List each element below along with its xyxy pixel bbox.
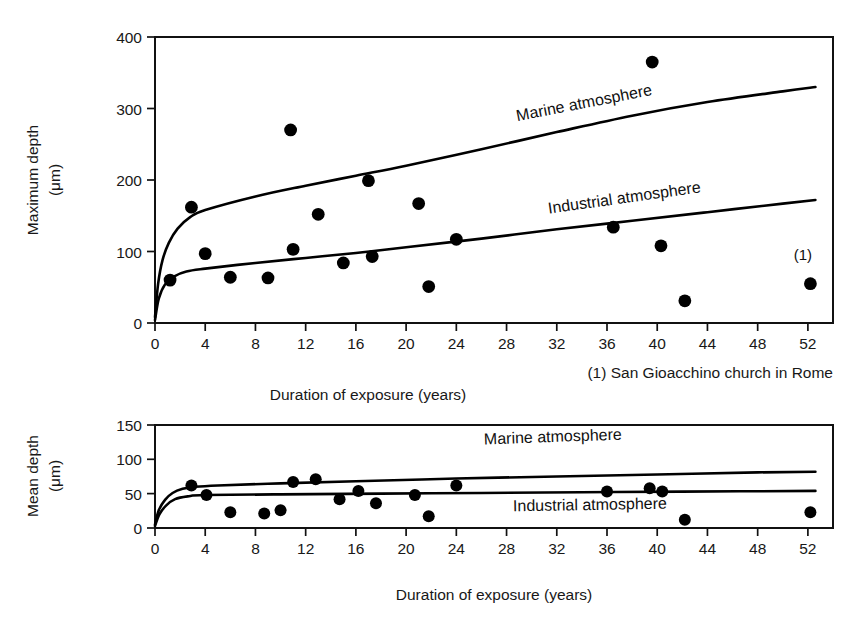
bottom-ytick-100: 100 bbox=[116, 451, 142, 468]
xtick-label-32: 32 bbox=[548, 335, 565, 352]
xtick-label-32: 32 bbox=[548, 540, 565, 557]
xtick-label-40: 40 bbox=[649, 540, 667, 557]
data-point bbox=[164, 274, 177, 287]
data-point bbox=[366, 250, 379, 263]
xtick-label-44: 44 bbox=[699, 540, 717, 557]
bottom-x-axis-title: Duration of exposure (years) bbox=[396, 586, 592, 603]
data-point bbox=[284, 124, 297, 137]
maximum-depth-chart: 400 300 200 100 0 Maximum depth (μm) 048… bbox=[24, 29, 833, 352]
xtick-label-16: 16 bbox=[347, 335, 364, 352]
top-plot-frame bbox=[155, 37, 833, 323]
xtick-label-24: 24 bbox=[448, 540, 466, 557]
bottom-ytick-150: 150 bbox=[116, 417, 142, 434]
top-y-axis-title-line1: Maximum depth bbox=[24, 125, 41, 235]
data-point bbox=[200, 489, 212, 501]
xtick-label-4: 4 bbox=[201, 335, 210, 352]
bottom-data-points bbox=[185, 473, 816, 526]
mean-depth-chart: 150 100 50 0 Mean depth (μm) 04812162024… bbox=[24, 417, 833, 557]
data-point bbox=[352, 485, 364, 497]
xtick-label-12: 12 bbox=[297, 540, 314, 557]
data-point bbox=[310, 473, 322, 485]
data-point bbox=[334, 493, 346, 505]
curve-label-marine-atmosphere-bottom: Marine atmosphere bbox=[484, 426, 622, 448]
xtick-label-0: 0 bbox=[151, 335, 160, 352]
top-x-axis: 0481216202428323640444852 bbox=[151, 323, 817, 352]
data-point bbox=[601, 486, 613, 498]
data-point bbox=[185, 479, 197, 491]
top-ytick-400: 400 bbox=[116, 29, 142, 46]
xtick-label-20: 20 bbox=[397, 335, 415, 352]
top-ytick-200: 200 bbox=[116, 172, 142, 189]
xtick-label-36: 36 bbox=[598, 335, 615, 352]
data-point bbox=[804, 277, 817, 290]
xtick-label-20: 20 bbox=[397, 540, 415, 557]
curve-industrial-atmosphere-top bbox=[155, 200, 815, 320]
data-point bbox=[678, 294, 691, 307]
data-point bbox=[646, 56, 659, 69]
xtick-label-4: 4 bbox=[201, 540, 210, 557]
data-point bbox=[679, 514, 691, 526]
data-point bbox=[312, 208, 325, 221]
curve-marine-atmosphere-top bbox=[155, 87, 815, 317]
xtick-label-8: 8 bbox=[251, 540, 260, 557]
xtick-label-8: 8 bbox=[251, 335, 260, 352]
bottom-ytick-50: 50 bbox=[125, 486, 143, 503]
curve-label-industrial-atmosphere-bottom: Industrial atmosphere bbox=[513, 495, 667, 515]
xtick-label-36: 36 bbox=[598, 540, 615, 557]
data-point bbox=[337, 257, 350, 270]
top-ytick-0: 0 bbox=[133, 315, 142, 332]
data-point bbox=[409, 489, 421, 501]
xtick-label-52: 52 bbox=[799, 540, 816, 557]
xtick-label-28: 28 bbox=[498, 335, 515, 352]
data-point bbox=[287, 243, 300, 256]
data-point bbox=[607, 221, 620, 234]
bottom-y-axis-title-line2: (μm) bbox=[46, 460, 63, 492]
xtick-label-0: 0 bbox=[151, 540, 160, 557]
data-point bbox=[185, 201, 198, 214]
top-ytick-100: 100 bbox=[116, 244, 142, 261]
data-point bbox=[362, 174, 375, 187]
data-point bbox=[655, 239, 668, 252]
curve-label-marine-atmosphere-top: Marine atmosphere bbox=[515, 81, 654, 124]
data-point bbox=[224, 271, 237, 284]
bottom-y-axis-title-line1: Mean depth bbox=[24, 435, 41, 517]
xtick-label-12: 12 bbox=[297, 335, 314, 352]
top-ytick-300: 300 bbox=[116, 101, 142, 118]
curve-industrial-atmosphere-bottom bbox=[155, 491, 815, 526]
data-point bbox=[423, 510, 435, 522]
data-point bbox=[224, 506, 236, 518]
top-y-axis-title: Maximum depth (μm) bbox=[24, 125, 63, 235]
data-point bbox=[199, 247, 212, 260]
curve-label-industrial-atmosphere-top: Industrial atmosphere bbox=[547, 178, 702, 216]
xtick-label-40: 40 bbox=[649, 335, 667, 352]
top-y-axis: 400 300 200 100 0 bbox=[116, 29, 155, 332]
xtick-label-16: 16 bbox=[347, 540, 364, 557]
bottom-ytick-0: 0 bbox=[133, 520, 142, 537]
bottom-y-axis: 150 100 50 0 bbox=[116, 417, 155, 537]
annotation-footnote-marker: (1) bbox=[794, 246, 812, 263]
data-point bbox=[644, 482, 656, 494]
top-x-axis-title: Duration of exposure (years) bbox=[270, 386, 466, 403]
data-point bbox=[450, 233, 463, 246]
bottom-x-axis: 0481216202428323640444852 bbox=[151, 528, 817, 557]
data-point bbox=[275, 504, 287, 516]
data-point bbox=[370, 497, 382, 509]
xtick-label-48: 48 bbox=[749, 540, 766, 557]
xtick-label-44: 44 bbox=[699, 335, 717, 352]
xtick-label-48: 48 bbox=[749, 335, 766, 352]
top-y-axis-title-line2: (μm) bbox=[46, 164, 63, 196]
xtick-label-24: 24 bbox=[448, 335, 466, 352]
data-point bbox=[804, 506, 816, 518]
data-point bbox=[412, 197, 425, 210]
bottom-y-axis-title: Mean depth (μm) bbox=[24, 435, 63, 517]
data-point bbox=[450, 479, 462, 491]
footnote-san-gioacchino: (1) San Gioacchino church in Rome bbox=[587, 364, 833, 381]
data-point bbox=[262, 272, 275, 285]
data-point bbox=[422, 280, 435, 293]
curve-marine-atmosphere-bottom bbox=[155, 472, 815, 525]
corrosion-depth-figure: 400 300 200 100 0 Maximum depth (μm) 048… bbox=[0, 0, 861, 623]
data-point bbox=[258, 508, 270, 520]
top-data-points bbox=[164, 56, 817, 308]
data-point bbox=[656, 486, 668, 498]
xtick-label-28: 28 bbox=[498, 540, 515, 557]
